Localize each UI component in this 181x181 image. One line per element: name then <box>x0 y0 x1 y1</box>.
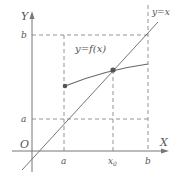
curve-start-point <box>63 84 68 89</box>
x0-label-sub: 0 <box>113 160 117 167</box>
function-label: y=f(x) <box>74 43 106 54</box>
y-axis-arrow-icon <box>30 11 35 19</box>
x0-label: x0 <box>108 156 117 167</box>
y-axis-label: Y <box>21 10 30 23</box>
axes <box>12 16 164 172</box>
diagonal-label: y=x <box>151 7 170 17</box>
x-axis-label: X <box>159 136 169 149</box>
a-y-label: a <box>21 114 26 124</box>
dashed-guides <box>32 5 148 151</box>
b-x-label: b <box>145 156 151 166</box>
x-axis-arrow-icon <box>161 149 169 154</box>
function-curve <box>65 64 148 86</box>
fixed-point-diagram: Y X O b a a x0 b y=f(x) y=x <box>0 0 181 181</box>
a-x-label: a <box>61 156 66 166</box>
b-y-label: b <box>21 30 27 40</box>
fixed-point <box>110 67 115 72</box>
origin-label: O <box>20 138 29 151</box>
